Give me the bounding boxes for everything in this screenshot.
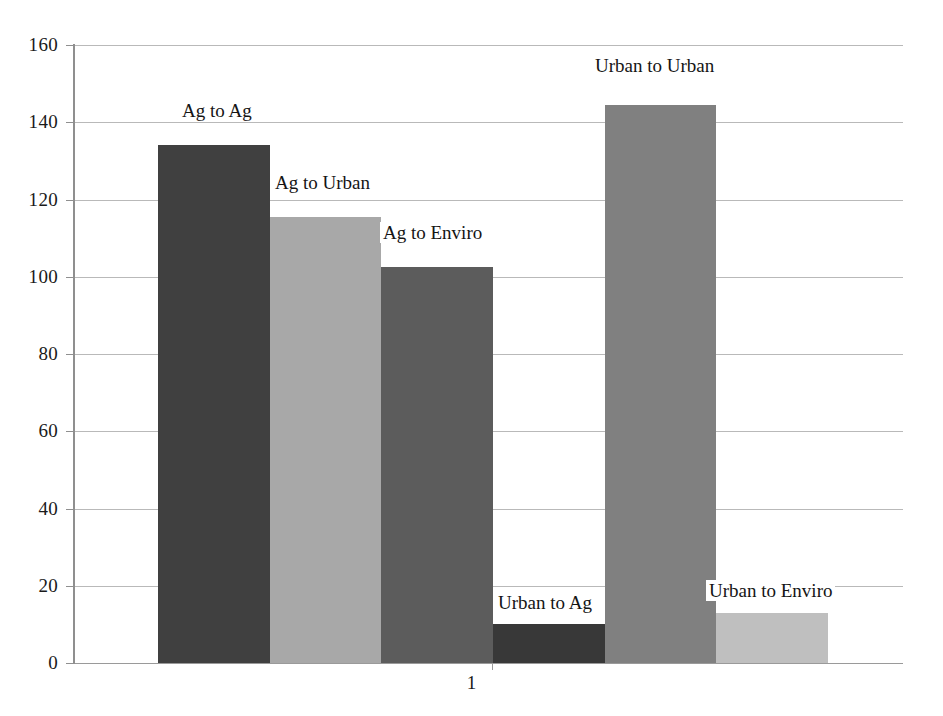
series-label: Ag to Urban (272, 172, 373, 193)
y-axis-tick-label: 20 (0, 576, 58, 595)
y-axis-tick-label: 120 (0, 190, 58, 209)
series-label: Ag to Enviro (380, 222, 485, 243)
y-axis-tick-label: 0 (0, 653, 58, 672)
y-axis-tick-label: 160 (0, 35, 58, 54)
gridline (74, 663, 903, 664)
bar[interactable] (716, 613, 828, 663)
bar[interactable] (493, 624, 605, 663)
y-axis-tick-label: 80 (0, 344, 58, 363)
x-axis-category-label: 1 (0, 672, 943, 694)
y-axis-tick-label: 40 (0, 499, 58, 518)
bar[interactable] (381, 267, 493, 663)
series-label: Urban to Urban (592, 55, 717, 76)
y-axis-tick-label: 100 (0, 267, 58, 286)
bar[interactable] (605, 105, 717, 663)
y-axis-tick-label: 140 (0, 112, 58, 131)
bar-chart: 020406080100120140160 Ag to AgAg to Urba… (0, 0, 943, 716)
series-label: Ag to Ag (179, 100, 255, 121)
bar[interactable] (270, 217, 382, 663)
bar[interactable] (158, 145, 270, 663)
y-axis-tick-label: 60 (0, 421, 58, 440)
series-label: Urban to Enviro (706, 580, 835, 601)
series-label: Urban to Ag (495, 592, 595, 613)
x-axis-tick (492, 664, 493, 670)
plot-area (74, 45, 903, 663)
